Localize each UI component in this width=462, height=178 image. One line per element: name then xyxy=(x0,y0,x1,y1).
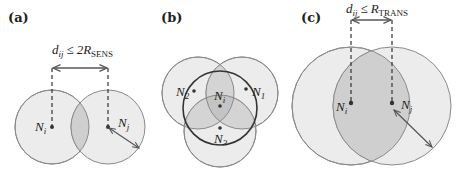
node-dot-1 xyxy=(244,87,248,91)
panel-a-constraint: dij≤2RSENS xyxy=(52,42,113,59)
node-dot-i xyxy=(349,101,353,105)
panel-a: (a) dij≤2RSENS Ni Nj xyxy=(8,10,145,164)
panel-b: (b) N2 Ni N1 N3 xyxy=(161,10,278,167)
node-dot-2 xyxy=(192,89,196,93)
panel-c-constraint: dij≤RTRANS xyxy=(346,1,408,18)
node-dot-j xyxy=(390,101,394,105)
node-dot-3 xyxy=(218,126,222,130)
panel-c-label: (c) xyxy=(301,10,321,25)
node-dot-i xyxy=(50,125,54,129)
panel-a-label: (a) xyxy=(8,10,29,25)
coverage-diagram: (a) dij≤2RSENS Ni Nj (b) xyxy=(0,0,462,178)
panel-c: (c) dij≤RTRANS Ni Nj xyxy=(292,1,451,165)
panel-b-label: (b) xyxy=(161,10,182,25)
node-dot-i xyxy=(218,104,222,108)
